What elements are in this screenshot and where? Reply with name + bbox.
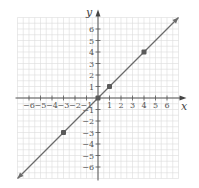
x-axis-label: x [181,100,188,113]
x-tick-label: 1 [107,101,112,110]
x-tick-label: 3 [130,101,135,110]
y-tick-label: 1 [89,83,94,92]
coordinate-plane: −6−5−4−3−2−1123456−6−5−4−3−2−1123456 x y [0,0,199,188]
y-axis-arrow-icon [96,10,101,17]
y-tick-label: −2 [82,117,94,126]
data-point [61,130,66,135]
x-tick-label: −3 [58,101,70,110]
x-tick-label: 4 [141,101,146,110]
y-tick-label: −5 [82,152,94,161]
data-point [107,84,112,89]
data-point [142,50,147,55]
y-tick-label: −6 [82,163,94,172]
y-tick-label: −4 [82,140,94,149]
y-tick-label: 6 [89,25,94,34]
x-tick-label: −2 [69,101,81,110]
x-tick-label: −6 [23,101,35,110]
y-tick-label: −3 [82,129,94,138]
data-point [96,96,101,101]
y-tick-label: −1 [82,106,94,115]
x-tick-label: −5 [35,101,47,110]
x-tick-label: 5 [153,101,158,110]
x-tick-label: 2 [118,101,123,110]
x-tick-label: 6 [164,101,169,110]
y-tick-label: 5 [89,37,94,46]
y-tick-label: 4 [89,48,94,57]
y-tick-label: 2 [89,71,94,80]
y-axis-label: y [85,6,93,19]
x-tick-label: −4 [46,101,58,110]
y-tick-label: 3 [89,60,94,69]
